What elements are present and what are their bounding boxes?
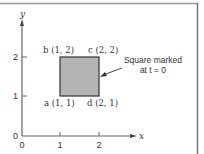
x-tick-label-2: 2	[96, 140, 101, 150]
annotation-arrow-icon	[100, 72, 107, 77]
y-tick-label-0: 0	[13, 131, 18, 141]
y-axis-arrow-icon	[20, 19, 24, 26]
corner-label-a: a (1, 1)	[44, 98, 75, 108]
x-tick-label-0: 0	[19, 140, 24, 150]
annotation-line-2: at t = 0	[140, 65, 166, 75]
x-axis-arrow-icon	[130, 134, 137, 138]
annotation-line-1: Square marked	[124, 55, 182, 65]
corner-label-d: d (2, 1)	[87, 98, 118, 108]
y-tick-label-1: 1	[13, 91, 18, 101]
y-axis-label: y	[19, 9, 26, 19]
corner-label-b: b (1, 2)	[43, 45, 74, 55]
diagram-canvas: y x 0 1 2 0 1 2 b (1, 2) c (2, 2) a (1, …	[0, 0, 204, 154]
x-axis-label: x	[139, 131, 144, 141]
y-tick-label-2: 2	[13, 52, 18, 62]
square-region	[60, 57, 99, 96]
x-tick-label-1: 1	[57, 140, 62, 150]
corner-label-c: c (2, 2)	[88, 45, 118, 55]
